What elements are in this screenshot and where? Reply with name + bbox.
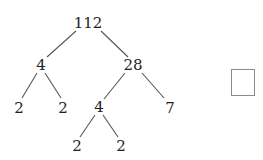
- edge-28-to-4: [104, 73, 125, 99]
- node-middle-factor: 4: [94, 100, 104, 115]
- edge-112-to-4: [47, 31, 76, 57]
- edge-4-to-2-right: [45, 73, 61, 98]
- node-right-factor: 28: [123, 58, 142, 73]
- node-leaf-prime: 7: [165, 101, 175, 116]
- node-leaf-prime: 2: [14, 101, 24, 116]
- tree-edges: [0, 0, 263, 160]
- edge-112-to-28: [101, 31, 128, 57]
- node-leaf-prime: 2: [58, 101, 68, 116]
- node-leaf-prime: 2: [72, 139, 82, 154]
- answer-box[interactable]: [231, 69, 255, 96]
- factor-tree-diagram: 112 4 28 2 2 4 7 2 2: [0, 0, 263, 160]
- edge-28-to-7: [142, 73, 164, 98]
- edge-4-to-2-bottom-right: [103, 115, 118, 137]
- node-left-factor: 4: [36, 58, 46, 73]
- node-leaf-prime: 2: [116, 139, 126, 154]
- edge-4-to-2-left: [22, 73, 37, 98]
- edge-4-to-2-bottom-left: [80, 115, 95, 137]
- node-root: 112: [74, 16, 103, 31]
